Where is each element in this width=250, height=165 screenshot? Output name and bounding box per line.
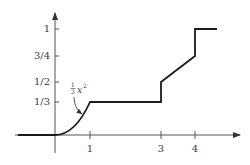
annotation-numerator: 1 <box>71 81 75 88</box>
piecewise-function-graph: 1/3 1/2 3/4 1 1 3 4 1 3 x 2 <box>0 0 250 165</box>
annotation-pointer-arrow <box>74 97 82 114</box>
x-label-three: 3 <box>158 143 164 154</box>
y-label-one-half: 1/2 <box>34 76 50 87</box>
y-label-three-quarters: 3/4 <box>34 50 50 61</box>
annotation-denominator: 3 <box>71 88 75 95</box>
curve-annotation: 1 3 x 2 <box>71 81 88 114</box>
y-label-one-third: 1/3 <box>34 96 50 107</box>
annotation-exponent: 2 <box>83 82 87 89</box>
x-label-four: 4 <box>192 143 198 154</box>
annotation-variable: x <box>77 85 82 95</box>
y-label-one: 1 <box>44 23 50 34</box>
x-label-one: 1 <box>87 143 93 154</box>
